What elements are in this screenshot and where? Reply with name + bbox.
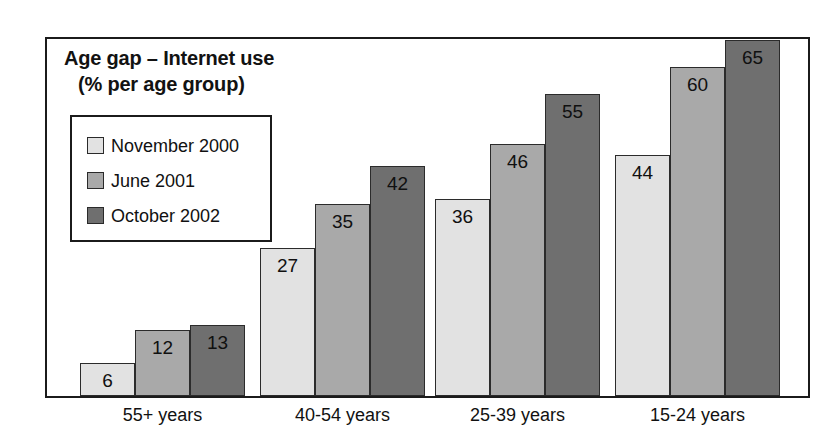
bar: 36 [435,199,490,396]
bar-value-label: 65 [726,48,779,67]
bar-value-label: 55 [546,102,599,121]
bar: 44 [615,155,670,396]
bar: 42 [370,166,425,396]
bar-value-label: 6 [81,371,134,390]
bars-layer: 61213273542364655446065 [47,39,808,396]
bar: 65 [725,40,780,396]
bar-value-label: 12 [136,338,189,357]
bar: 55 [545,94,600,396]
bar-value-label: 42 [371,174,424,193]
bar: 46 [490,144,545,396]
bar-value-label: 13 [191,333,244,352]
bar-value-label: 35 [316,212,369,231]
bar: 12 [135,330,190,396]
bar-value-label: 27 [261,256,314,275]
bar: 60 [670,67,725,396]
category-label: 40-54 years [260,406,425,424]
bar-value-label: 60 [671,75,724,94]
bar-value-label: 44 [616,163,669,182]
bar: 35 [315,204,370,396]
bar: 6 [80,363,135,396]
bar-chart: Age gap – Internet use (% per age group)… [0,0,838,444]
bar-value-label: 36 [436,207,489,226]
category-label: 55+ years [80,406,245,424]
category-axis: 55+ years40-54 years25-39 years15-24 yea… [45,406,810,436]
bar: 13 [190,325,245,396]
category-label: 25-39 years [435,406,600,424]
bar: 27 [260,248,315,396]
bar-value-label: 46 [491,152,544,171]
category-label: 15-24 years [615,406,780,424]
